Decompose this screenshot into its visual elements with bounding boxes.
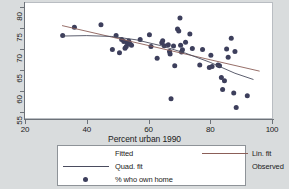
x-axis-tick bbox=[272, 120, 273, 124]
line-swatch-quad-fit bbox=[63, 166, 109, 167]
scatter-point bbox=[190, 46, 195, 51]
scatter-point bbox=[155, 56, 160, 61]
legend-key-quad-fit bbox=[58, 166, 113, 167]
scatter-point bbox=[98, 22, 103, 27]
scatter-point bbox=[210, 64, 215, 69]
x-axis-title: Percent urban 1990 bbox=[0, 134, 289, 144]
scatter-point bbox=[168, 52, 173, 57]
scatter-point bbox=[178, 43, 183, 48]
scatter-point bbox=[234, 105, 239, 110]
x-axis-tick bbox=[87, 120, 88, 124]
scatter-point bbox=[129, 43, 134, 48]
legend-label-lin-fit: Lin. fit bbox=[252, 149, 271, 158]
x-axis-tick-label: 100 bbox=[260, 125, 284, 134]
y-axis-line bbox=[24, 2, 25, 119]
chart-root: 556065707580 20406080100 Percent urban 1… bbox=[0, 0, 289, 189]
scatter-point bbox=[226, 55, 231, 60]
legend-row: Fitted Lin. fit bbox=[58, 147, 247, 160]
scatter-point bbox=[169, 96, 174, 101]
y-axis-tick-label: 65 bbox=[15, 70, 24, 88]
plot-area bbox=[24, 2, 273, 119]
plot-canvas bbox=[25, 3, 272, 118]
scatter-point bbox=[208, 53, 213, 58]
scatter-point bbox=[176, 29, 181, 34]
x-axis-tick-label: 40 bbox=[75, 125, 99, 134]
y-axis-tick-label: 60 bbox=[15, 91, 24, 109]
scatter-point bbox=[187, 31, 192, 36]
legend-row: Quad. fit Observed bbox=[58, 160, 247, 173]
x-axis-tick bbox=[210, 120, 211, 124]
scatter-point bbox=[232, 49, 237, 54]
scatter-point bbox=[166, 42, 171, 47]
scatter-point bbox=[245, 93, 250, 98]
legend-key-lin-fit bbox=[197, 153, 252, 154]
scatter-point bbox=[220, 87, 225, 92]
legend-label-fitted: Fitted bbox=[113, 149, 197, 158]
y-axis-tick-label: 70 bbox=[15, 49, 24, 67]
x-axis-tick-label: 20 bbox=[13, 125, 37, 134]
scatter-point bbox=[147, 32, 152, 37]
legend: Fitted Lin. fit Quad. fit Observed % who… bbox=[57, 145, 246, 186]
scatter-series-own-home bbox=[60, 16, 250, 111]
scatter-point bbox=[160, 38, 165, 43]
scatter-point bbox=[222, 78, 227, 83]
line-swatch-lin-fit bbox=[202, 153, 248, 154]
legend-label-quad-fit: Quad. fit bbox=[113, 162, 197, 171]
scatter-point bbox=[110, 47, 115, 52]
fit-line-lin-fit bbox=[62, 26, 260, 72]
scatter-point bbox=[117, 50, 122, 55]
x-axis-tick bbox=[25, 120, 26, 124]
scatter-point bbox=[177, 16, 182, 21]
y-axis-tick-label: 75 bbox=[15, 28, 24, 46]
legend-label-observed: Observed bbox=[252, 162, 284, 171]
marker-swatch-observed bbox=[83, 177, 88, 182]
legend-key-observed-marker bbox=[58, 177, 113, 182]
scatter-point bbox=[183, 40, 188, 45]
legend-label-own-home: % who own home bbox=[113, 175, 197, 184]
y-axis-tick-label: 80 bbox=[15, 7, 24, 25]
scatter-point bbox=[172, 63, 177, 68]
scatter-point bbox=[200, 47, 205, 52]
x-axis-tick bbox=[149, 120, 150, 124]
scatter-point bbox=[224, 47, 229, 52]
legend-row: % who own home bbox=[58, 173, 247, 186]
scatter-point bbox=[229, 36, 234, 41]
scatter-point bbox=[171, 44, 176, 49]
x-axis-tick-label: 60 bbox=[137, 125, 161, 134]
scatter-point bbox=[197, 62, 202, 67]
scatter-point bbox=[231, 90, 236, 95]
x-axis-tick-label: 80 bbox=[198, 125, 222, 134]
